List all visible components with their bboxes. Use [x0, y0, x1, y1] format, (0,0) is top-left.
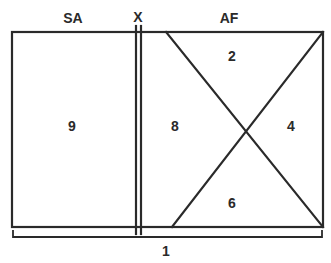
region-label-6: 6: [228, 196, 236, 210]
floor-plan-diagram: [0, 0, 331, 263]
bracket-label-1: 1: [162, 244, 170, 258]
label-sa: SA: [63, 11, 82, 25]
label-af: AF: [220, 11, 239, 25]
region-label-2: 2: [228, 49, 236, 63]
outer-rectangle: [12, 32, 323, 227]
region-label-8: 8: [171, 119, 179, 133]
label-x: X: [133, 10, 142, 24]
region-label-4: 4: [287, 119, 295, 133]
region-label-9: 9: [68, 119, 76, 133]
bottom-bracket: [13, 231, 322, 237]
